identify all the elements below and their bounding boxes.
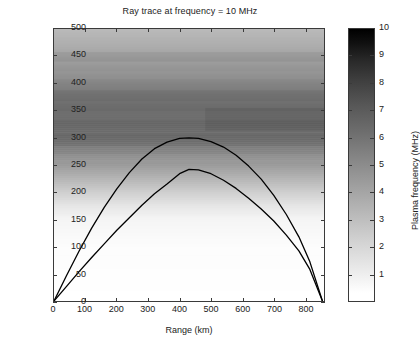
x-tick-mark [148, 298, 149, 302]
colorbar-tick-label: 10 [379, 23, 389, 32]
y-tick-mark-right [321, 275, 325, 276]
colorbar-tick-mark [348, 275, 352, 276]
colorbar-tick-label: 4 [379, 187, 384, 196]
y-tick-mark-right [321, 165, 325, 166]
colorbar-tick-mark [348, 138, 352, 139]
x-tick-mark-top [148, 28, 149, 32]
colorbar-tick-mark-right [370, 138, 374, 139]
y-tick-label: 400 [46, 78, 86, 87]
colorbar-tick-mark-right [370, 275, 374, 276]
y-tick-label: 300 [46, 133, 86, 142]
colorbar-tick-label: 7 [379, 105, 384, 114]
colorbar-tick-label: 8 [379, 78, 384, 87]
colorbar-tick-mark-right [370, 165, 374, 166]
y-tick-label: 150 [46, 215, 86, 224]
y-tick-mark-right [321, 110, 325, 111]
colorbar-tick-mark-right [370, 247, 374, 248]
x-tick-mark-top [211, 28, 212, 32]
x-tick-mark-top [243, 28, 244, 32]
y-tick-label: 200 [46, 187, 86, 196]
colorbar-tick-mark-right [370, 110, 374, 111]
x-tick-mark [116, 298, 117, 302]
colorbar-tick-mark [348, 247, 352, 248]
colorbar-tick-label: 1 [379, 270, 384, 279]
x-tick-label: 800 [286, 305, 326, 314]
y-tick-label: 350 [46, 105, 86, 114]
y-tick-mark-right [321, 302, 325, 303]
y-tick-mark-right [321, 220, 325, 221]
y-tick-mark-right [321, 192, 325, 193]
colorbar-tick-mark-right [370, 55, 374, 56]
x-tick-mark-top [116, 28, 117, 32]
y-tick-mark-right [321, 55, 325, 56]
colorbar-tick-mark-right [370, 28, 374, 29]
x-tick-mark [274, 298, 275, 302]
colorbar-tick-mark [348, 220, 352, 221]
x-tick-mark [180, 298, 181, 302]
colorbar-tick-mark [348, 192, 352, 193]
x-tick-mark-top [274, 28, 275, 32]
x-tick-mark-top [180, 28, 181, 32]
colorbar-label: Plasma frequency (MHz) [410, 131, 420, 230]
colorbar-tick-mark [348, 110, 352, 111]
colorbar-tick-mark [348, 55, 352, 56]
y-tick-mark-right [321, 28, 325, 29]
plot-area [53, 28, 325, 302]
colorbar-tick-label: 2 [379, 242, 384, 251]
x-tick-mark [211, 298, 212, 302]
y-tick-mark-right [321, 138, 325, 139]
figure-title: Ray trace at frequency = 10 MHz [0, 6, 380, 16]
y-tick-mark-right [321, 83, 325, 84]
y-tick-label: 100 [46, 242, 86, 251]
colorbar-tick-mark [348, 83, 352, 84]
x-tick-mark [306, 298, 307, 302]
colorbar-tick-mark-right [370, 192, 374, 193]
x-tick-mark [243, 298, 244, 302]
ray-trace-curves [54, 29, 324, 301]
colorbar-tick-label: 3 [379, 215, 384, 224]
y-tick-label: 500 [46, 23, 86, 32]
colorbar-tick-label: 5 [379, 160, 384, 169]
colorbar-tick-label: 9 [379, 50, 384, 59]
colorbar-tick-mark-right [370, 83, 374, 84]
y-tick-label: 250 [46, 160, 86, 169]
y-tick-label: 50 [46, 270, 86, 279]
colorbar-tick-mark [348, 28, 352, 29]
x-axis-label: Range (km) [53, 325, 325, 335]
colorbar-tick-label: 6 [379, 133, 384, 142]
y-tick-mark-right [321, 247, 325, 248]
colorbar-tick-mark [348, 165, 352, 166]
y-tick-label: 450 [46, 50, 86, 59]
x-tick-mark-top [306, 28, 307, 32]
colorbar-tick-mark-right [370, 220, 374, 221]
